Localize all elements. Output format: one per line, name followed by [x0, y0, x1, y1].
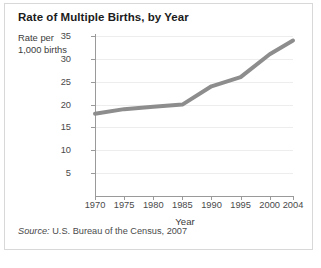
x-axis-tick-label: 1980	[143, 200, 164, 210]
figure-card: Rate of Multiple Births, by Year Rate pe…	[4, 3, 313, 250]
page-title: Rate of Multiple Births, by Year	[18, 11, 189, 23]
series-line-rate-of-multiple-births	[95, 41, 293, 114]
x-axis-tick-label: 1975	[114, 200, 135, 210]
x-axis-tick-label: 1990	[201, 200, 222, 210]
x-axis-tick-label: 2004	[283, 200, 304, 210]
x-axis-tick-label: 1995	[230, 200, 251, 210]
source-text: U.S. Bureau of the Census, 2007	[52, 226, 187, 236]
chart-plot: 3530252015105 19701975198019851990199520…	[65, 34, 305, 199]
x-axis-tick-label: 1985	[172, 200, 193, 210]
source-label: Source:	[18, 226, 50, 236]
x-axis-tick-label: 1970	[85, 200, 106, 210]
series-line-group	[65, 34, 305, 199]
x-axis-tick-label: 2000	[259, 200, 280, 210]
source-note: Source: U.S. Bureau of the Census, 2007	[18, 226, 187, 236]
